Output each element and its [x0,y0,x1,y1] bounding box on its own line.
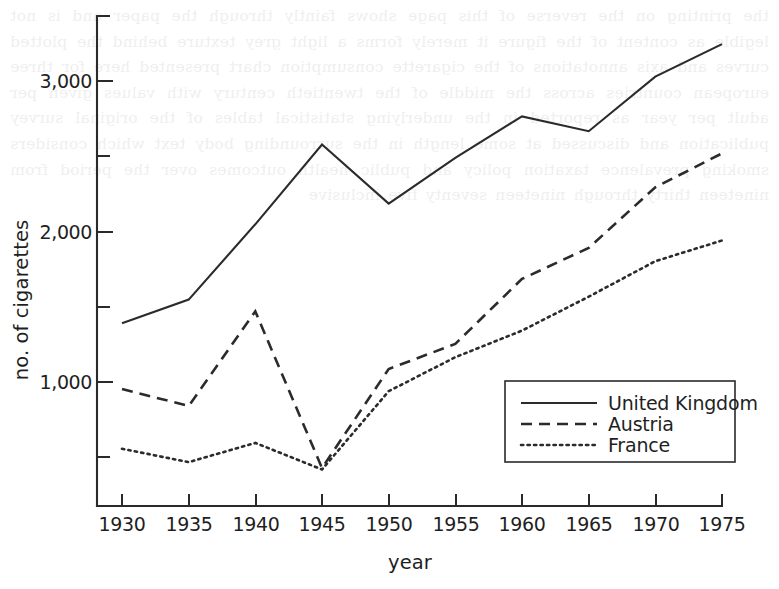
y-axis-tick-labels: 3,000 2,000 1,000 [40,70,92,393]
legend-label-france: France [608,434,670,456]
x-tick-label-1950: 1950 [366,513,413,535]
x-tick-label-1975: 1975 [699,513,746,535]
y-tick-label-3000: 3,000 [40,70,92,92]
legend-label-united-kingdom: United Kingdom [608,392,758,414]
y-tick-label-2000: 2,000 [40,221,92,243]
y-axis-title: no. of cigarettes [10,220,33,381]
y-tick-label-1000: 1,000 [40,371,92,393]
x-axis-title: year [388,551,433,574]
figure-container: the printing on the reverse of this page… [0,0,779,589]
legend: United Kingdom Austria France [505,381,758,462]
x-tick-label-1930: 1930 [99,513,146,535]
x-tick-label-1940: 1940 [233,513,280,535]
y-axis-ticks [97,16,113,457]
x-tick-label-1970: 1970 [633,513,680,535]
legend-label-austria: Austria [608,413,674,435]
x-tick-label-1935: 1935 [166,513,213,535]
series-line-united-kingdom [122,44,722,323]
x-axis-ticks [122,494,722,506]
x-tick-label-1960: 1960 [499,513,546,535]
x-tick-label-1945: 1945 [299,513,346,535]
x-tick-label-1965: 1965 [566,513,613,535]
line-chart: 3,000 2,000 1,000 no. of cigarettes 1930… [0,0,779,589]
x-axis-tick-labels: 1930 1935 1940 1945 1950 1955 1960 1965 … [99,513,746,535]
x-tick-label-1955: 1955 [433,513,480,535]
